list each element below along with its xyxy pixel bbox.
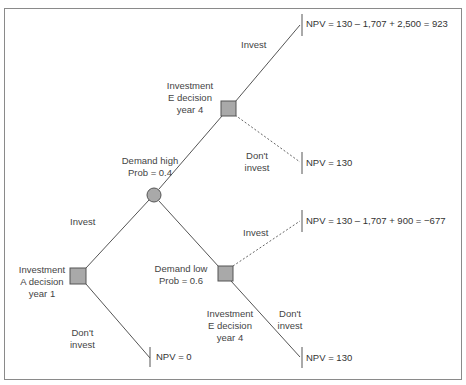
label-line: Investment <box>14 264 70 276</box>
outcome-high-dont-invest: NPV = 130 <box>306 157 352 169</box>
label-line: A decision <box>14 276 70 288</box>
decision-e-high-label: Investment E decision year 4 <box>160 80 220 116</box>
label-line: invest <box>70 339 95 351</box>
label-line: Demand low <box>150 263 212 275</box>
label-line: Demand high <box>116 155 184 167</box>
branch-label-high-invest: Invest <box>241 39 266 51</box>
outcome-a-dont-invest: NPV = 0 <box>156 351 192 363</box>
decision-node-e-low <box>218 266 233 281</box>
chance-node <box>147 188 161 202</box>
label-line: Don't <box>275 308 305 320</box>
label-line: Prob = 0.6 <box>150 275 212 287</box>
decision-tree-diagram: Investment A decision year 1 Investment … <box>0 0 466 385</box>
decision-e-low-label: Investment E decision year 4 <box>200 308 260 344</box>
decision-node-a <box>70 268 86 284</box>
label-line: invest <box>242 162 272 174</box>
outcome-low-dont-invest: NPV = 130 <box>306 352 352 364</box>
outcome-high-invest: NPV = 130 – 1,707 + 2,500 = 923 <box>306 18 448 30</box>
branch-label-low-invest: Invest <box>243 227 268 239</box>
label-line: year 4 <box>200 332 260 344</box>
label-line: year 1 <box>14 288 70 300</box>
decision-a-label: Investment A decision year 1 <box>14 264 70 300</box>
label-line: year 4 <box>160 104 220 116</box>
label-line: Don't <box>70 327 95 339</box>
label-line: E decision <box>160 92 220 104</box>
label-line: Prob = 0.4 <box>116 167 184 179</box>
branch-label-a-dont-invest: Don't invest <box>70 327 95 351</box>
decision-node-e-high <box>221 101 236 116</box>
outcome-low-invest: NPV = 130 – 1,707 + 900 = −677 <box>306 215 445 227</box>
label-line: Don't <box>242 150 272 162</box>
branch-label-high-dont-invest: Don't invest <box>242 150 272 174</box>
branch-label-demand-low: Demand low Prob = 0.6 <box>150 263 212 287</box>
label-line: Investment <box>160 80 220 92</box>
label-line: invest <box>275 320 305 332</box>
branch-label-low-dont-invest: Don't invest <box>275 308 305 332</box>
branch-a-dont-invest-line <box>86 284 150 358</box>
branch-label-demand-high: Demand high Prob = 0.4 <box>116 155 184 179</box>
label-line: E decision <box>200 320 260 332</box>
branch-high-invest-line <box>235 25 300 102</box>
branch-label-a-invest: Invest <box>70 216 95 228</box>
branch-a-invest-line <box>86 200 149 268</box>
label-line: Investment <box>200 308 260 320</box>
branch-demand-low-line <box>159 201 219 267</box>
